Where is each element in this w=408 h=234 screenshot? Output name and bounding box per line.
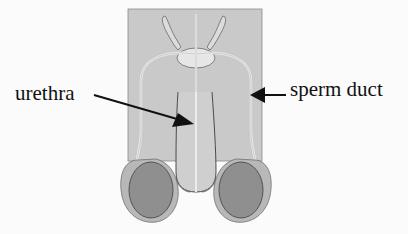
sperm-duct-label: sperm duct [290, 79, 383, 100]
urethra-label: urethra [15, 83, 74, 104]
left-testis [121, 159, 178, 222]
reproductive-system-diagram [0, 0, 408, 234]
right-testis [214, 159, 271, 222]
diagram-canvas: urethra sperm duct [0, 0, 408, 234]
